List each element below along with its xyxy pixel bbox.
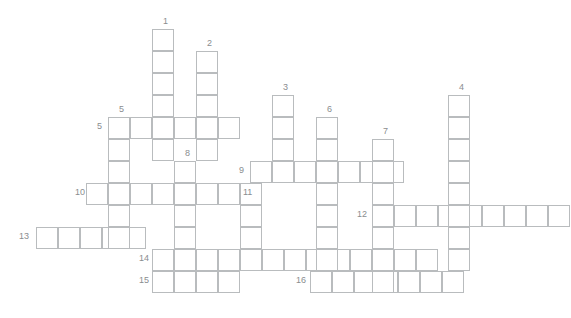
- crossword-cell[interactable]: [196, 139, 218, 161]
- crossword-cell[interactable]: [196, 95, 218, 117]
- crossword-cell[interactable]: [174, 183, 196, 205]
- crossword-cell[interactable]: [196, 73, 218, 95]
- crossword-cell[interactable]: [272, 139, 294, 161]
- crossword-cell[interactable]: [372, 249, 394, 271]
- crossword-cell[interactable]: [372, 271, 394, 293]
- crossword-cell[interactable]: [442, 271, 464, 293]
- crossword-cell[interactable]: [294, 161, 316, 183]
- crossword-cell[interactable]: [174, 249, 196, 271]
- crossword-cell[interactable]: [448, 117, 470, 139]
- crossword-cell[interactable]: [420, 271, 442, 293]
- crossword-cell[interactable]: [86, 183, 108, 205]
- crossword-cell[interactable]: [130, 183, 152, 205]
- crossword-cell[interactable]: [448, 139, 470, 161]
- crossword-cell[interactable]: [526, 205, 548, 227]
- crossword-cell[interactable]: [174, 161, 196, 183]
- clue-number: 7: [383, 126, 388, 136]
- crossword-cell[interactable]: [338, 161, 360, 183]
- crossword-cell[interactable]: [262, 249, 284, 271]
- crossword-cell[interactable]: [316, 161, 338, 183]
- crossword-cell[interactable]: [218, 249, 240, 271]
- crossword-cell[interactable]: [310, 271, 332, 293]
- crossword-cell[interactable]: [196, 183, 218, 205]
- clue-number: 14: [139, 253, 149, 263]
- crossword-cell[interactable]: [108, 183, 130, 205]
- crossword-cell[interactable]: [372, 183, 394, 205]
- clue-number: 9: [239, 165, 244, 175]
- crossword-cell[interactable]: [316, 139, 338, 161]
- crossword-cell[interactable]: [448, 95, 470, 117]
- crossword-cell[interactable]: [416, 205, 438, 227]
- crossword-cell[interactable]: [196, 271, 218, 293]
- crossword-cell[interactable]: [218, 271, 240, 293]
- crossword-cell[interactable]: [218, 183, 240, 205]
- crossword-cell[interactable]: [316, 249, 338, 271]
- crossword-cell[interactable]: [250, 161, 272, 183]
- crossword-cell[interactable]: [448, 183, 470, 205]
- crossword-cell[interactable]: [174, 271, 196, 293]
- crossword-cell[interactable]: [174, 205, 196, 227]
- crossword-cell[interactable]: [316, 227, 338, 249]
- clue-number: 3: [283, 82, 288, 92]
- crossword-cell[interactable]: [130, 117, 152, 139]
- crossword-cell[interactable]: [272, 117, 294, 139]
- crossword-cell[interactable]: [272, 161, 294, 183]
- crossword-cell[interactable]: [272, 95, 294, 117]
- crossword-cell[interactable]: [504, 205, 526, 227]
- crossword-cell[interactable]: [448, 161, 470, 183]
- crossword-cell[interactable]: [108, 205, 130, 227]
- clue-number: 12: [357, 209, 367, 219]
- crossword-cell[interactable]: [108, 161, 130, 183]
- crossword-cell[interactable]: [394, 205, 416, 227]
- crossword-cell[interactable]: [284, 249, 306, 271]
- crossword-cell[interactable]: [152, 249, 174, 271]
- crossword-cell[interactable]: [372, 227, 394, 249]
- crossword-cell[interactable]: [196, 51, 218, 73]
- crossword-cell[interactable]: [196, 117, 218, 139]
- crossword-cell[interactable]: [350, 249, 372, 271]
- crossword-cell[interactable]: [152, 51, 174, 73]
- crossword-cell[interactable]: [316, 183, 338, 205]
- clue-number: 6: [327, 104, 332, 114]
- clue-number: 5: [97, 121, 102, 131]
- crossword-grid[interactable]: 123455678910111213141516: [0, 0, 571, 318]
- crossword-cell[interactable]: [108, 117, 130, 139]
- crossword-cell[interactable]: [152, 271, 174, 293]
- crossword-cell[interactable]: [448, 205, 470, 227]
- crossword-cell[interactable]: [152, 29, 174, 51]
- crossword-cell[interactable]: [240, 227, 262, 249]
- crossword-cell[interactable]: [316, 205, 338, 227]
- clue-number: 11: [243, 187, 252, 197]
- clue-number: 15: [139, 275, 149, 285]
- crossword-cell[interactable]: [174, 117, 196, 139]
- crossword-cell[interactable]: [152, 183, 174, 205]
- clue-number: 5: [119, 104, 124, 114]
- crossword-cell[interactable]: [240, 249, 262, 271]
- crossword-cell[interactable]: [152, 95, 174, 117]
- crossword-cell[interactable]: [36, 227, 58, 249]
- crossword-cell[interactable]: [108, 139, 130, 161]
- crossword-cell[interactable]: [482, 205, 504, 227]
- crossword-cell[interactable]: [174, 227, 196, 249]
- crossword-cell[interactable]: [152, 73, 174, 95]
- crossword-cell[interactable]: [196, 249, 218, 271]
- crossword-cell[interactable]: [448, 249, 470, 271]
- crossword-cell[interactable]: [398, 271, 420, 293]
- crossword-cell[interactable]: [372, 161, 394, 183]
- crossword-cell[interactable]: [372, 139, 394, 161]
- crossword-cell[interactable]: [218, 117, 240, 139]
- crossword-cell[interactable]: [548, 205, 570, 227]
- crossword-cell[interactable]: [372, 205, 394, 227]
- crossword-cell[interactable]: [240, 205, 262, 227]
- clue-number: 16: [296, 275, 306, 285]
- crossword-cell[interactable]: [152, 117, 174, 139]
- crossword-cell[interactable]: [58, 227, 80, 249]
- crossword-cell[interactable]: [448, 227, 470, 249]
- crossword-cell[interactable]: [416, 249, 438, 271]
- crossword-cell[interactable]: [152, 139, 174, 161]
- crossword-cell[interactable]: [80, 227, 102, 249]
- crossword-cell[interactable]: [108, 227, 130, 249]
- crossword-cell[interactable]: [394, 249, 416, 271]
- crossword-cell[interactable]: [316, 117, 338, 139]
- crossword-cell[interactable]: [332, 271, 354, 293]
